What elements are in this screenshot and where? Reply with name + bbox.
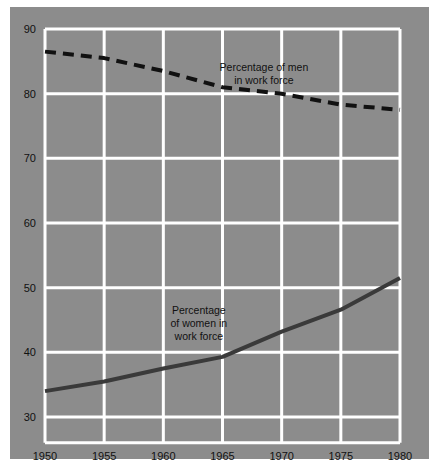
chart-figure: 30405060708090 1950195519601965197019751… — [0, 0, 439, 471]
annotation-men-label: Percentage of menin work force — [220, 61, 309, 86]
y-tick-label-80: 80 — [24, 88, 36, 100]
x-tick-label-1960: 1960 — [151, 450, 175, 462]
y-tick-label-30: 30 — [24, 411, 36, 423]
y-tick-label-40: 40 — [24, 346, 36, 358]
series-annotations: Percentage of menin work forcePercentage… — [171, 61, 309, 342]
x-tick-label-1950: 1950 — [33, 450, 57, 462]
y-tick-label-70: 70 — [24, 152, 36, 164]
annotation-women-label: Percentageof women inwork force — [171, 304, 228, 342]
x-tick-label-1955: 1955 — [92, 450, 116, 462]
x-tick-label-1975: 1975 — [329, 450, 353, 462]
x-axis-tick-labels: 1950195519601965197019751980 — [33, 450, 412, 462]
x-tick-label-1970: 1970 — [269, 450, 293, 462]
x-tick-label-1980: 1980 — [388, 450, 412, 462]
y-axis-tick-labels: 30405060708090 — [24, 23, 36, 423]
y-tick-label-60: 60 — [24, 217, 36, 229]
line-chart: 30405060708090 1950195519601965197019751… — [0, 0, 439, 471]
x-tick-label-1965: 1965 — [210, 450, 234, 462]
y-tick-label-50: 50 — [24, 282, 36, 294]
y-tick-label-90: 90 — [24, 23, 36, 35]
